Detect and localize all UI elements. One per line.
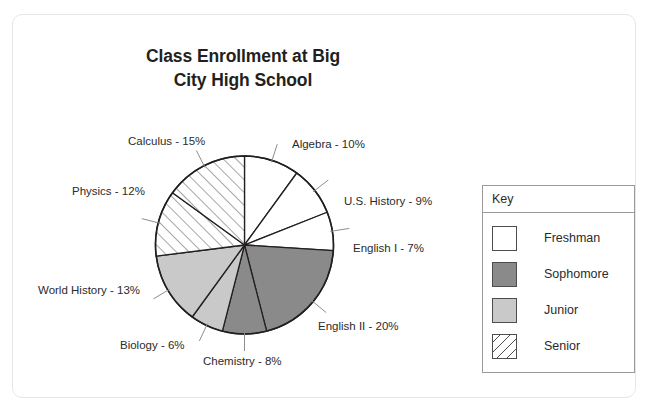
leader-line-physics (142, 219, 160, 224)
leader-line-calculus (196, 151, 205, 168)
pie-chart-svg (0, 0, 652, 418)
slice-label-calculus: Calculus - 15% (128, 136, 205, 148)
pie-chart: Calculus - 15% Algebra - 10% Physics - 1… (0, 0, 652, 418)
slice-label-us-history: U.S. History - 9% (344, 196, 432, 208)
slice-label-world-history: World History - 13% (38, 285, 140, 297)
slice-label-english-2: English II - 20% (318, 321, 399, 333)
pie-slices (155, 156, 333, 334)
slice-label-english-1: English I - 7% (353, 243, 424, 255)
slice-label-physics: Physics - 12% (72, 186, 145, 198)
leader-line-english-ii (312, 300, 327, 312)
leader-line-world-history (153, 289, 169, 299)
leader-line-algebra (271, 144, 277, 162)
leader-line-u-s-history (313, 180, 328, 192)
leader-line-biology (199, 324, 207, 341)
leader-line-english-i (330, 228, 349, 231)
slice-label-chemistry: Chemistry - 8% (203, 356, 282, 368)
slice-label-biology: Biology - 6% (120, 340, 185, 352)
slice-label-algebra: Algebra - 10% (292, 139, 365, 151)
